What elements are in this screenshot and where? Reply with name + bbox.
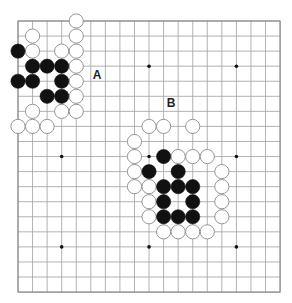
white-stone	[55, 44, 69, 58]
black-stone	[186, 180, 200, 194]
black-stone	[55, 59, 69, 73]
black-stone	[186, 210, 200, 224]
white-stone	[55, 104, 69, 118]
label-a: A	[93, 68, 102, 82]
black-stone	[186, 195, 200, 209]
star-point-icon	[235, 245, 239, 249]
white-stone	[142, 195, 156, 209]
black-stone	[157, 149, 171, 163]
star-point-icon	[147, 245, 151, 249]
black-stone	[157, 180, 171, 194]
star-point-icon	[235, 155, 239, 159]
white-stone	[11, 119, 25, 133]
white-stone	[157, 119, 171, 133]
white-stone	[69, 44, 83, 58]
black-stone	[142, 165, 156, 179]
black-stone	[11, 44, 25, 58]
black-stone	[171, 165, 185, 179]
black-stone	[157, 210, 171, 224]
white-stone	[69, 74, 83, 88]
black-stone	[25, 59, 39, 73]
white-stone	[142, 180, 156, 194]
white-stone	[215, 165, 229, 179]
white-stone	[186, 149, 200, 163]
white-stone	[69, 89, 83, 103]
black-stone	[11, 74, 25, 88]
white-stone	[40, 119, 54, 133]
star-point-icon	[235, 64, 239, 68]
star-point-icon	[147, 64, 151, 68]
black-stone	[157, 195, 171, 209]
white-stone	[25, 119, 39, 133]
white-stone	[127, 134, 141, 148]
star-point-icon	[147, 155, 151, 159]
white-stone	[157, 225, 171, 239]
white-stone	[69, 59, 83, 73]
black-stone	[55, 89, 69, 103]
white-stone	[171, 149, 185, 163]
white-stone	[186, 225, 200, 239]
white-stone	[200, 225, 214, 239]
black-stone	[171, 180, 185, 194]
go-board-diagram: A B	[0, 0, 292, 303]
black-stone	[40, 89, 54, 103]
white-stone	[215, 210, 229, 224]
white-stone	[142, 210, 156, 224]
white-stone	[142, 119, 156, 133]
black-stone	[55, 74, 69, 88]
white-stone	[127, 149, 141, 163]
white-stone	[127, 180, 141, 194]
white-stone	[69, 29, 83, 43]
white-stone	[127, 165, 141, 179]
star-point-icon	[60, 155, 64, 159]
white-stone	[171, 225, 185, 239]
label-b: B	[167, 96, 176, 110]
black-stone	[40, 59, 54, 73]
star-point-icon	[60, 245, 64, 249]
white-stone	[215, 195, 229, 209]
white-stone	[215, 180, 229, 194]
white-stone	[69, 104, 83, 118]
black-stone	[171, 210, 185, 224]
white-stone	[69, 14, 83, 28]
white-stone	[25, 44, 39, 58]
white-stone	[186, 119, 200, 133]
white-stone	[200, 149, 214, 163]
white-stone	[25, 104, 39, 118]
white-stone	[25, 29, 39, 43]
black-stone	[25, 74, 39, 88]
